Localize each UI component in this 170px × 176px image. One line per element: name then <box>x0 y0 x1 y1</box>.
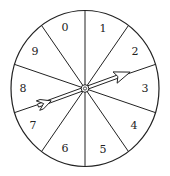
sector-label-8: 8 <box>20 82 27 95</box>
sector-label-0: 0 <box>62 21 69 34</box>
sector-label-1: 1 <box>100 22 107 35</box>
spinner-diagram: 0 1 2 3 4 5 6 7 8 9 <box>0 0 170 176</box>
sector-label-5: 5 <box>100 143 107 156</box>
sector-label-3: 3 <box>142 82 149 95</box>
sector-label-9: 9 <box>32 45 39 58</box>
sector-label-7: 7 <box>30 119 37 132</box>
sector-label-2: 2 <box>132 45 139 58</box>
sector-label-6: 6 <box>62 142 69 155</box>
center-pivot-inner <box>83 87 86 90</box>
sector-label-4: 4 <box>131 119 138 132</box>
